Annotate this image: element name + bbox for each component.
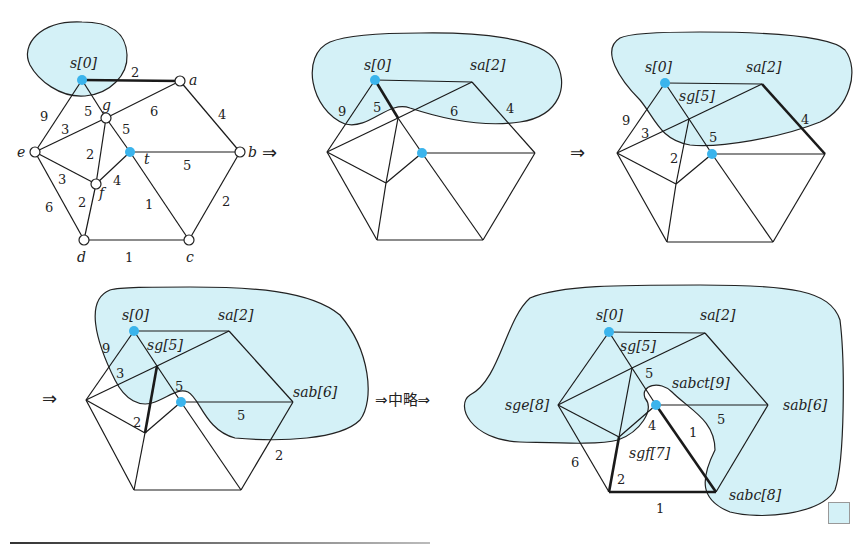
graph-step-5: s[0] sa[2] sg[5] sge[8] sabct[9] sab[6] …	[464, 285, 843, 516]
label-e: sge[8]	[505, 397, 550, 413]
label-g: sg[5]	[679, 88, 716, 104]
node-s	[660, 78, 670, 88]
graph-step-2: s[0] sa[2] 9 5 6 4	[312, 33, 561, 240]
weight-f-t: 4	[113, 173, 121, 188]
node-a	[175, 76, 185, 86]
weight-b-c: 2	[222, 194, 230, 209]
weight-f-t: 4	[648, 418, 656, 433]
edge-g-a	[106, 81, 180, 118]
edge-t-c	[130, 152, 189, 240]
weight-a-b: 4	[218, 107, 226, 122]
label-a: sa[2]	[218, 307, 254, 323]
node-s	[604, 327, 614, 337]
dijkstra-figure: s[0] a g e t b f d c 2 9 5 6 4 3 5 5 2 3…	[0, 0, 863, 545]
step-arrow-2: ⇒	[570, 142, 585, 163]
end-of-proof-marker	[828, 502, 850, 524]
graph-step-4: s[0] sa[2] sg[5] sab[6] 9 3 2 5 5 2	[86, 287, 368, 490]
weight-d-c: 1	[125, 250, 133, 265]
node-s	[77, 75, 87, 85]
node-t	[176, 397, 186, 407]
weight-g-t: 5	[645, 366, 653, 381]
weight-t-b: 5	[717, 412, 725, 427]
weight-a-b: 4	[801, 112, 809, 127]
weight-s-e: 9	[338, 104, 346, 119]
node-d	[79, 235, 89, 245]
label-t: t	[144, 151, 150, 167]
label-a: sa[2]	[746, 59, 782, 75]
label-b: b	[248, 144, 257, 160]
weight-f-d: 2	[78, 195, 86, 210]
label-b: sab[6]	[783, 397, 828, 413]
label-d: d	[77, 249, 86, 265]
step-arrow-omitted: ⇒中略⇒	[375, 391, 430, 409]
label-s: s[0]	[70, 55, 98, 71]
label-s: s[0]	[122, 307, 150, 323]
label-s: s[0]	[645, 59, 673, 75]
label-a: a	[189, 72, 197, 88]
edge-s-a	[82, 80, 180, 81]
weight-g-f: 2	[670, 151, 678, 166]
weight-g-t: 5	[175, 379, 183, 394]
label-a: sa[2]	[470, 57, 506, 73]
graph-step-1: s[0] a g e t b f d c 2 9 5 6 4 3 5 5 2 3…	[17, 22, 257, 265]
weight-s-e: 9	[622, 113, 630, 128]
edge-f-d	[667, 184, 676, 242]
edge-b-c	[773, 154, 825, 242]
node-s	[129, 326, 139, 336]
weight-g-f: 2	[86, 147, 94, 162]
node-b	[235, 147, 245, 157]
label-s: s[0]	[364, 57, 392, 73]
weight-b-c: 2	[275, 448, 283, 463]
node-t	[125, 147, 135, 157]
edge-f-d	[377, 183, 386, 240]
label-a: sa[2]	[700, 307, 736, 323]
edge-t-c	[422, 153, 483, 240]
label-g: sg[5]	[147, 337, 184, 353]
edge-t-c	[712, 154, 773, 242]
label-g: g	[102, 97, 111, 113]
weight-e-f: 3	[58, 172, 66, 187]
edge-g-f	[386, 118, 398, 183]
edge-a-b	[180, 81, 240, 152]
step-arrow-3: ⇒	[42, 388, 57, 409]
node-t	[707, 149, 717, 159]
weight-s-g: 5	[373, 100, 381, 115]
node-c	[184, 235, 194, 245]
node-e	[30, 147, 40, 157]
weight-e-g: 3	[61, 122, 69, 137]
node-t	[417, 148, 427, 158]
weight-e-d: 6	[45, 200, 53, 215]
label-e: e	[17, 144, 25, 160]
label-c: sabc[8]	[729, 487, 782, 503]
label-b: sab[6]	[293, 384, 338, 400]
weight-t-c: 1	[145, 197, 153, 212]
label-t: sabct[9]	[672, 375, 730, 391]
weight-t-b: 5	[237, 408, 245, 423]
label-c: c	[186, 249, 194, 265]
weight-g-f: 2	[133, 415, 141, 430]
label-f: sgf[7]	[629, 445, 671, 461]
label-g: sg[5]	[620, 338, 657, 354]
edge-f-d	[134, 433, 145, 490]
edge-b-c	[189, 152, 240, 240]
weight-s-a: 2	[131, 65, 139, 80]
edge-f-d	[84, 184, 96, 240]
step-arrow-1: ⇒	[262, 142, 277, 163]
weight-g-a: 6	[450, 104, 458, 119]
weight-g-t: 5	[709, 130, 717, 145]
edge-g-t	[398, 118, 422, 153]
weight-e-d: 6	[571, 455, 579, 470]
weight-d-c: 1	[656, 501, 664, 516]
weight-s-e: 9	[40, 109, 48, 124]
weight-t-c: 1	[689, 425, 697, 440]
edge-b-c	[483, 153, 535, 240]
edge-g-f	[96, 118, 106, 184]
weight-e-g: 3	[116, 366, 124, 381]
weight-g-a: 6	[150, 104, 158, 119]
node-g	[101, 113, 111, 123]
label-f: f	[98, 185, 107, 201]
weight-a-b: 4	[506, 101, 514, 116]
weight-e-g: 3	[641, 126, 649, 141]
divider-line	[10, 542, 430, 544]
weight-t-b: 5	[183, 158, 191, 173]
